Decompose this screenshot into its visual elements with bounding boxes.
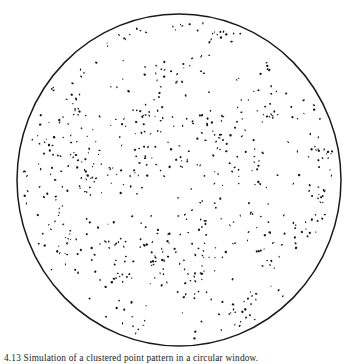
circular-window-boundary	[17, 14, 341, 346]
figure-caption-text: Simulation of a clustered point pattern …	[24, 353, 259, 363]
figure-caption: 4.13 Simulation of a clustered point pat…	[4, 353, 350, 364]
scatter-points-layer	[22, 22, 333, 340]
figure-caption-number: 4.13	[4, 353, 21, 363]
